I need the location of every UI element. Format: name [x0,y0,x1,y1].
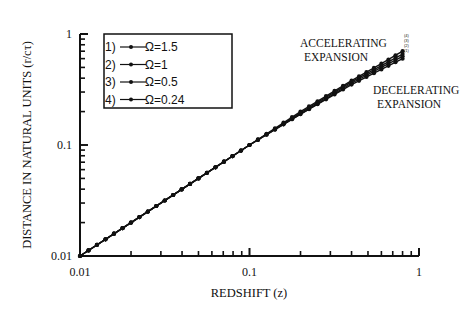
data-point-marker [307,104,311,108]
curve-end-label: (1) [404,48,410,53]
data-point-marker [213,165,217,169]
y-axis-title: DISTANCE IN NATURAL UNITS (r/cτ) [20,41,34,249]
data-point-marker [273,126,277,130]
data-point-marker [103,237,107,241]
data-point-marker [239,148,243,152]
data-point-marker [95,243,99,247]
data-point-marker [290,115,294,119]
legend-label: Ω=0.24 [145,93,185,107]
data-point-marker [386,57,390,61]
data-point-marker [364,70,368,74]
data-point-marker [230,154,234,158]
data-point-marker [154,204,158,208]
data-point-marker [315,99,319,103]
accelerating-label-2: EXPANSION [304,51,369,63]
data-point-marker [281,121,285,125]
data-point-marker [120,226,124,230]
legend-marker [129,80,133,84]
data-point-marker [188,182,192,186]
x-tick-label: 0.1 [242,265,257,279]
legend: 1)Ω=1.52)Ω=13)Ω=0.54)Ω=0.24 [104,34,232,108]
decelerating-label-2: EXPANSION [377,98,442,110]
x-tick-label: 0.01 [70,265,91,279]
legend-marker [129,63,133,67]
legend-index: 3) [105,75,116,89]
decelerating-label: DECELERATING [373,84,459,96]
data-point-marker [357,74,361,78]
data-point-marker [112,232,116,236]
y-tick-label: 0.1 [57,138,72,152]
data-point-marker [196,176,200,180]
accelerating-label: ACCELERATING [300,37,387,49]
legend-marker [129,45,133,49]
data-point-marker [180,187,184,191]
data-point-marker [129,220,133,224]
legend-label: Ω=0.5 [145,75,178,89]
data-point-marker [393,53,397,57]
data-point-marker [163,198,167,202]
hubble-distance-chart: 0.010.110.010.11 1)Ω=1.52)Ω=13)Ω=0.54)Ω=… [0,0,476,319]
data-point-marker [341,84,345,88]
y-tick-label: 0.01 [51,249,72,263]
legend-marker [129,98,133,102]
data-point-marker [256,137,260,141]
data-point-marker [171,193,175,197]
data-point-marker [379,62,383,66]
data-point-marker [137,215,141,219]
data-point-marker [298,109,302,113]
legend-label: Ω=1 [145,58,168,72]
data-point-marker [222,160,226,164]
y-tick-label: 1 [66,27,72,41]
data-point-marker [78,254,82,258]
data-point-marker [146,209,150,213]
legend-index: 2) [105,58,116,72]
legend-index: 4) [105,93,116,107]
data-point-marker [247,143,251,147]
data-point-marker [349,79,353,83]
data-point-marker [205,171,209,175]
legend-label: Ω=1.5 [145,40,178,54]
x-axis-title: REDSHIFT (z) [211,286,288,300]
x-tick-label: 1 [416,265,422,279]
data-point-marker [264,132,268,136]
legend-index: 1) [105,40,116,54]
data-point-marker [372,66,376,70]
data-point-marker [324,94,328,98]
data-point-marker [86,248,90,252]
data-point-marker [332,89,336,93]
